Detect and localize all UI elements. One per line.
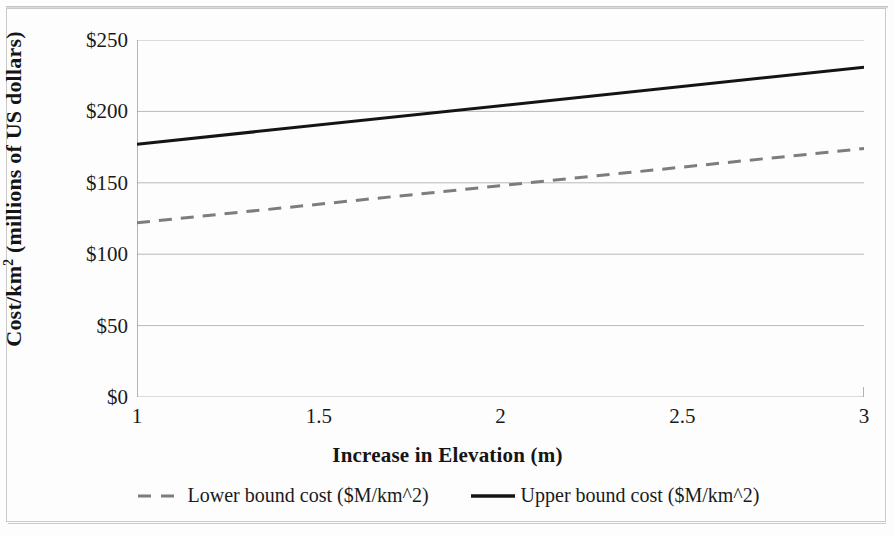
x-axis-tick-labels: 11.522.53 xyxy=(0,404,895,436)
x-axis-tick-label: 1.5 xyxy=(279,404,359,429)
plot-area xyxy=(137,40,864,397)
series-line-lower-bound xyxy=(137,149,864,223)
legend-item-lower-bound: Lower bound cost ($M/km^2) xyxy=(136,484,429,507)
dashed-line-swatch xyxy=(136,489,182,503)
y-axis-tick-label: $100 xyxy=(8,242,128,267)
y-axis-tick-label: $250 xyxy=(8,28,128,53)
series-line-upper-bound xyxy=(137,67,864,144)
legend-item-upper-bound: Upper bound cost ($M/km^2) xyxy=(469,484,760,507)
plot-svg xyxy=(137,40,864,397)
axis-lines xyxy=(137,40,864,397)
y-axis-tick-label: $200 xyxy=(8,99,128,124)
x-axis-tick-label: 2.5 xyxy=(642,404,722,429)
x-axis-tick-label: 1 xyxy=(97,404,177,429)
legend-label-lower-bound: Lower bound cost ($M/km^2) xyxy=(188,484,429,507)
legend-label-upper-bound: Upper bound cost ($M/km^2) xyxy=(521,484,760,507)
scan-edge-shadow xyxy=(6,6,888,9)
y-axis-tick-label: $150 xyxy=(8,170,128,195)
solid-line-swatch xyxy=(469,489,515,503)
x-axis-tick-label: 2 xyxy=(461,404,541,429)
legend-bottom-rule xyxy=(8,523,886,524)
chart-legend: Lower bound cost ($M/km^2) Upper bound c… xyxy=(0,484,895,507)
x-axis-tick-label: 3 xyxy=(824,404,895,429)
gridlines xyxy=(137,40,864,397)
data-series xyxy=(137,67,864,223)
y-axis-tick-label: $50 xyxy=(8,313,128,338)
chart-figure: Cost/km2 (millions of US dollars) $0$50$… xyxy=(0,0,895,536)
x-axis-title: Increase in Elevation (m) xyxy=(0,443,895,468)
